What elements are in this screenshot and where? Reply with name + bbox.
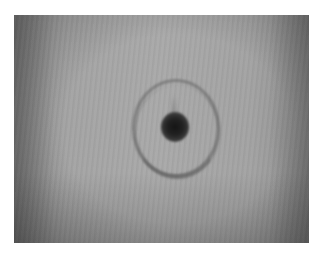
bottom-vignette — [14, 173, 309, 243]
dark-central-spot — [161, 112, 189, 142]
grayscale-photo — [14, 15, 309, 243]
canvas — [0, 0, 325, 255]
